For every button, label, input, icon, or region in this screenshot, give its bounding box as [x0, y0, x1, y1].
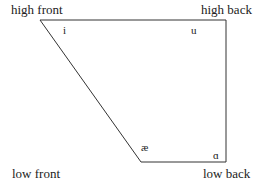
- label-high-front: high front: [11, 3, 63, 16]
- label-low-back: low back: [203, 167, 250, 180]
- label-high-back: high back: [201, 3, 252, 16]
- vowel-i: i: [63, 25, 66, 36]
- label-low-front: low front: [12, 167, 60, 180]
- vowel-a: ɑ: [213, 150, 219, 161]
- vowel-trapezoid: [0, 0, 270, 188]
- vowel-ae: æ: [141, 142, 148, 153]
- vowel-u: u: [191, 25, 197, 36]
